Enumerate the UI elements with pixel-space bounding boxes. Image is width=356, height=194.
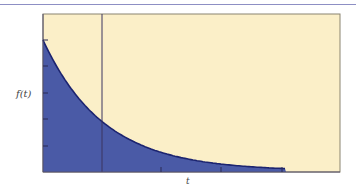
y-axis-label: f(t) (16, 88, 32, 99)
chart-plot (0, 0, 356, 194)
x-axis-label: t (186, 176, 190, 186)
